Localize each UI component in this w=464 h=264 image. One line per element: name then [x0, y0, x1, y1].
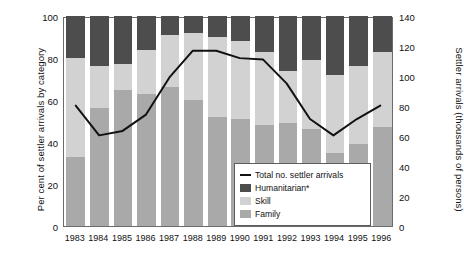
y-tick-left-60: 60 [47, 96, 58, 107]
y-tick-right-100: 100 [399, 72, 415, 83]
legend-item-label: Family [255, 209, 280, 219]
legend-item-label: Skill [255, 196, 271, 206]
x-tick-1986: 1986 [135, 233, 155, 243]
x-tick-1984: 1984 [88, 233, 108, 243]
y-tick-left-80: 80 [47, 54, 58, 65]
x-tick-1989: 1989 [206, 233, 226, 243]
legend-item-skill: Skill [240, 194, 365, 207]
legend-item-family: Family [240, 207, 365, 220]
x-tick-1987: 1987 [159, 233, 179, 243]
legend-item-label: Humanitarian* [255, 183, 309, 193]
y-tick-right-120: 120 [399, 42, 415, 53]
y-tick-right-60: 60 [399, 132, 410, 143]
y-axis-left-ticks: 100806040200 [14, 0, 58, 264]
legend-item-totalnosettlerarrivals: Total no. settler arrivals [240, 168, 365, 181]
y-tick-left-20: 20 [47, 180, 58, 191]
chart-figure: Per cent of settler arrivals by category… [0, 0, 464, 264]
x-tick-1993: 1993 [300, 233, 320, 243]
x-axis-ticks: 1983198419851986198719881989199019911992… [63, 233, 393, 251]
y-tick-right-0: 0 [399, 222, 404, 233]
legend-swatch-icon [240, 184, 251, 192]
legend-line-marker-icon [240, 171, 251, 179]
x-tick-1991: 1991 [253, 233, 273, 243]
y-axis-right-title: Settler arrivals (thousands of persons) [454, 15, 464, 245]
x-tick-1992: 1992 [277, 233, 297, 243]
chart-legend: Total no. settler arrivalsHumanitarian*S… [234, 163, 371, 226]
x-tick-1983: 1983 [65, 233, 85, 243]
legend-item-label: Total no. settler arrivals [255, 170, 343, 180]
y-axis-right-ticks: 140120100806040200 [399, 0, 439, 264]
x-tick-1985: 1985 [112, 233, 132, 243]
y-tick-right-80: 80 [399, 102, 410, 113]
x-tick-1996: 1996 [371, 233, 391, 243]
y-tick-left-100: 100 [42, 12, 58, 23]
y-tick-right-140: 140 [399, 12, 415, 23]
legend-swatch-icon [240, 210, 251, 218]
x-tick-1990: 1990 [230, 233, 250, 243]
legend-item-humanitarian: Humanitarian* [240, 181, 365, 194]
y-tick-right-40: 40 [399, 162, 410, 173]
y-tick-left-0: 0 [53, 222, 58, 233]
y-tick-right-20: 20 [399, 192, 410, 203]
x-tick-1995: 1995 [348, 233, 368, 243]
legend-swatch-icon [240, 197, 251, 205]
total-arrivals-polyline [76, 51, 381, 136]
x-tick-1988: 1988 [183, 233, 203, 243]
x-tick-1994: 1994 [324, 233, 344, 243]
y-tick-left-40: 40 [47, 138, 58, 149]
